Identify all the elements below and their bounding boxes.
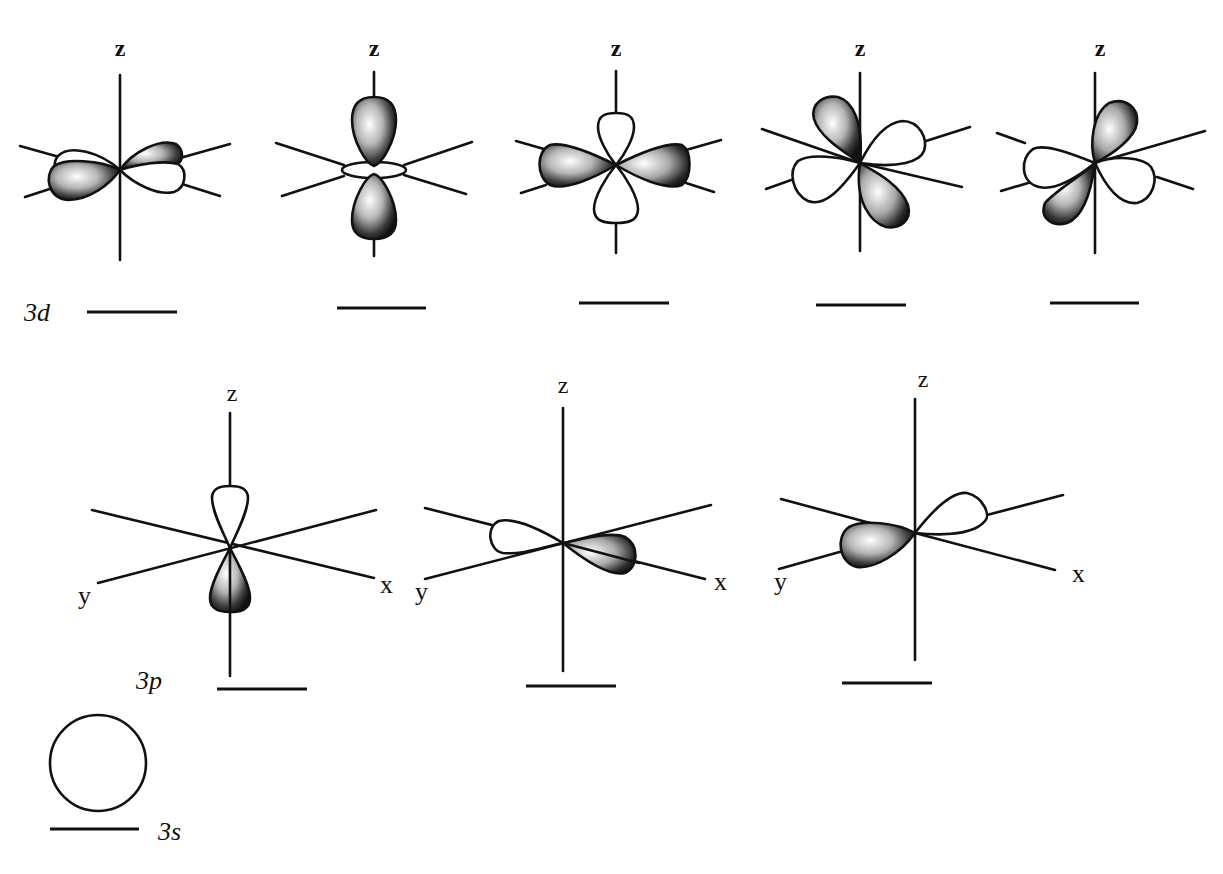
- axis-label-x: x: [714, 567, 727, 596]
- sublevel-label-3d: 3d: [23, 298, 51, 327]
- axis-label-z: z: [918, 366, 929, 392]
- sublevel-3p: z y x 3p z y x z: [78, 366, 1085, 695]
- orbital-3s: [50, 715, 146, 811]
- orbital-3d-3: z: [516, 35, 721, 253]
- sublevel-label-3s: 3s: [157, 817, 181, 846]
- sublevel-label-3p: 3p: [135, 666, 162, 695]
- axis-label-x: x: [1072, 559, 1085, 588]
- orbital-3p-y: z: [779, 366, 1063, 660]
- axis-label-z: z: [855, 35, 866, 61]
- orbital-3d-5: z: [997, 35, 1205, 253]
- axis-label-z: z: [611, 35, 622, 61]
- axis-label-x: x: [380, 570, 393, 599]
- axis-label-y: y: [78, 581, 91, 610]
- sublevel-3d: z 3d z z: [20, 35, 1205, 327]
- axis-label-z: z: [1095, 35, 1106, 61]
- axis-label-z: z: [558, 372, 569, 398]
- orbital-3d-4: z: [762, 35, 970, 251]
- orbital-3p-z: z: [92, 380, 376, 676]
- orbital-3p-x: z: [425, 372, 711, 671]
- axis-label-z: z: [115, 35, 126, 61]
- axis-label-z: z: [369, 35, 380, 61]
- orbital-energy-diagram: z 3d z z: [0, 0, 1223, 874]
- sublevel-3s: 3s: [50, 715, 181, 846]
- axis-label-y: y: [774, 567, 787, 596]
- axis-label-y: y: [415, 577, 428, 606]
- orbital-3d-1: z: [20, 35, 230, 260]
- axis-label-z: z: [227, 380, 238, 406]
- orbital-3d-2: z: [276, 35, 472, 256]
